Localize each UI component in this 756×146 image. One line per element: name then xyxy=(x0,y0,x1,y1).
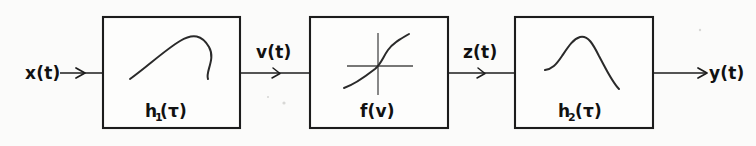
scan-speck xyxy=(699,29,701,31)
signal-v-label: v(t) xyxy=(256,42,292,62)
signal-y-label: y(t) xyxy=(709,63,745,83)
block-diagram-canvas: x(t) v(t) z(t) y(t) h 1 (τ) f(v) h 2 (τ) xyxy=(0,0,756,146)
block-h1-label: h 1 (τ) xyxy=(145,101,187,124)
block-h2-label-tail: (τ) xyxy=(575,101,602,121)
block-h1-label-tail: (τ) xyxy=(160,101,187,121)
block-h2-label: h 2 (τ) xyxy=(558,101,602,124)
signal-z-label: z(t) xyxy=(463,42,497,62)
block-f-label: f(v) xyxy=(360,101,395,121)
signal-y-group xyxy=(653,68,707,78)
signal-x-group xyxy=(60,68,103,78)
signal-x-label: x(t) xyxy=(25,63,60,83)
block-diagram-svg: x(t) v(t) z(t) y(t) h 1 (τ) f(v) h 2 (τ) xyxy=(0,0,756,146)
signal-z-group xyxy=(448,68,515,78)
signal-v-group xyxy=(240,68,310,78)
scan-speck xyxy=(267,96,269,98)
scan-speck xyxy=(282,101,285,104)
